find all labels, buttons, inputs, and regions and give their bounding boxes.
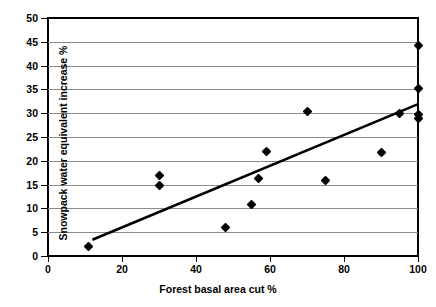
x-tick-label-100: 100 xyxy=(409,264,427,275)
y-tick-label-20: 20 xyxy=(0,156,38,167)
data-point xyxy=(302,107,312,117)
y-tick-label-50: 50 xyxy=(0,13,38,24)
gridline-y-45 xyxy=(48,42,418,43)
y-tick-label-25: 25 xyxy=(0,132,38,143)
y-tick-label-45: 45 xyxy=(0,37,38,48)
y-tick-label-40: 40 xyxy=(0,60,38,71)
gridline-y-40 xyxy=(48,66,418,67)
data-point xyxy=(413,83,423,93)
y-tick-label-15: 15 xyxy=(0,179,38,190)
x-tick-20 xyxy=(122,257,123,262)
gridline-y-30 xyxy=(48,113,418,114)
x-tick-label-40: 40 xyxy=(190,264,202,275)
data-point xyxy=(154,170,164,180)
x-tick-60 xyxy=(270,257,271,262)
y-tick-45 xyxy=(41,42,47,43)
x-tick-label-80: 80 xyxy=(338,264,350,275)
gridline-y-15 xyxy=(48,185,418,186)
x-tick-40 xyxy=(196,257,197,262)
y-tick-50 xyxy=(41,18,47,19)
data-point xyxy=(84,242,94,252)
data-point xyxy=(395,109,405,119)
y-tick-15 xyxy=(41,185,47,186)
x-tick-80 xyxy=(344,257,345,262)
data-point xyxy=(261,147,271,157)
y-tick-label-30: 30 xyxy=(0,108,38,119)
x-tick-0 xyxy=(48,257,49,262)
y-tick-25 xyxy=(41,137,47,138)
y-tick-label-35: 35 xyxy=(0,84,38,95)
gridline-y-35 xyxy=(48,89,418,90)
y-tick-label-10: 10 xyxy=(0,203,38,214)
x-tick-label-20: 20 xyxy=(116,264,128,275)
y-tick-5 xyxy=(41,232,47,233)
x-tick-label-0: 0 xyxy=(45,264,51,275)
gridline-y-20 xyxy=(48,161,418,162)
y-tick-0 xyxy=(41,256,47,257)
data-point xyxy=(154,180,164,190)
x-tick-100 xyxy=(418,257,419,262)
y-tick-20 xyxy=(41,161,47,162)
y-tick-label-0: 0 xyxy=(0,251,38,262)
gridline-y-10 xyxy=(48,208,418,209)
y-tick-35 xyxy=(41,89,47,90)
plot-area xyxy=(48,18,418,256)
data-point xyxy=(254,173,264,183)
y-tick-10 xyxy=(41,208,47,209)
data-point xyxy=(376,147,386,157)
y-tick-30 xyxy=(41,113,47,114)
x-tick-label-60: 60 xyxy=(264,264,276,275)
y-axis-title: Snowpack water equivalent increase % xyxy=(57,18,69,268)
y-tick-label-5: 5 xyxy=(0,227,38,238)
x-axis-title: Forest basal area cut % xyxy=(0,283,436,295)
gridline-y-25 xyxy=(48,137,418,138)
gridline-y-5 xyxy=(48,232,418,233)
y-tick-40 xyxy=(41,66,47,67)
scatter-chart: 05101520253035404550 020406080100 Snowpa… xyxy=(0,0,436,307)
